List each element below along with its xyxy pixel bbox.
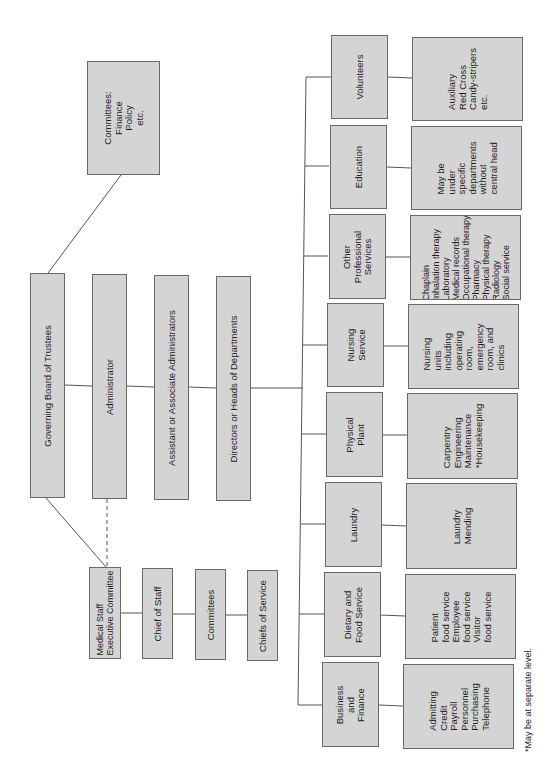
- dept-business-finance-details-box: Admitting Credit Payroll Personnel Purch…: [403, 664, 514, 749]
- footnote: *May be at separate level.: [523, 648, 533, 752]
- dept-physical-plant-details-box: Carpentry Engineering Maintenance *House…: [407, 393, 518, 479]
- dept-education-label: Education: [353, 146, 364, 188]
- dept-education-details-box: May be under specific departments withou…: [411, 126, 522, 210]
- dept-dietary-label: Dietary and Food Service: [342, 587, 363, 643]
- chief-of-staff-label: Chief of Staff: [152, 586, 163, 641]
- dept-dietary-box: Dietary and Food Service: [324, 572, 381, 657]
- dept-nursing-details: Nursing units including operating room, …: [422, 323, 506, 370]
- dept-volunteers-label: Volunteers: [354, 55, 365, 100]
- dept-laundry-box: Laundry: [325, 482, 382, 567]
- directors-label: Directors or Heads of Departments: [228, 315, 239, 462]
- dept-physical-plant-label: Physical Plant: [344, 417, 365, 452]
- dept-volunteers-box: Volunteers: [331, 35, 388, 119]
- dept-volunteers-details: Auxiliary Red Cross Candy-stripers etc.: [447, 48, 489, 110]
- assistant-administrators-box: Assistant or Associate Administrators: [154, 275, 189, 500]
- board-committees-label: Committees: Finance Policy etc.: [103, 91, 145, 144]
- dept-nursing-box: Nursing Service: [327, 303, 384, 387]
- administrator-box: Administrator: [92, 274, 127, 499]
- medical-committees-label: Committees: [205, 589, 216, 640]
- dept-education-box: Education: [330, 125, 387, 209]
- medical-staff-executive-committee-label: Medical Staff Executive Committee: [95, 570, 115, 655]
- assistant-administrators-label: Assistant or Associate Administrators: [166, 310, 177, 466]
- medical-committees-box: Committees: [195, 569, 226, 660]
- dept-dietary-details: Patient food service Employee food servi…: [429, 591, 492, 642]
- governing-board-label: Governing Board of Trustees: [42, 325, 53, 446]
- dept-laundry-details: Laundry Mending: [451, 508, 472, 544]
- directors-box: Directors or Heads of Departments: [216, 276, 251, 501]
- dept-business-finance-details: Admitting Credit Payroll Personnel Purch…: [427, 683, 490, 731]
- dept-other-professional-details: Chaplain Inhalation therapy Laboratory M…: [421, 215, 511, 300]
- administrator-label: Administrator: [104, 359, 115, 415]
- dept-other-professional-label: Other Professional Services: [342, 230, 374, 282]
- dept-nursing-label: Nursing Service: [345, 329, 366, 362]
- dept-physical-plant-box: Physical Plant: [326, 392, 383, 477]
- chief-of-staff-box: Chief of Staff: [142, 568, 173, 659]
- dept-education-details: May be under specific departments withou…: [435, 142, 498, 195]
- dept-laundry-label: Laundry: [348, 507, 359, 541]
- dept-laundry-details-box: Laundry Mending: [406, 483, 517, 569]
- dept-dietary-details-box: Patient food service Employee food servi…: [405, 574, 516, 659]
- medical-staff-executive-committee-box: Medical Staff Executive Committee: [89, 567, 121, 659]
- dept-physical-plant-details: Carpentry Engineering Maintenance *House…: [442, 404, 484, 468]
- chiefs-of-service-box: Chiefs of Service: [247, 570, 278, 661]
- dept-other-professional-box: Other Professional Services: [329, 214, 386, 299]
- dept-other-professional-details-box: Chaplain Inhalation therapy Laboratory M…: [410, 215, 521, 300]
- dept-business-finance-box: Business and Finance: [322, 662, 379, 747]
- governing-board-box: Governing Board of Trustees: [30, 273, 65, 498]
- dept-volunteers-details-box: Auxiliary Red Cross Candy-stripers etc.: [412, 37, 523, 121]
- board-committees-box: Committees: Finance Policy etc.: [87, 61, 160, 175]
- dept-business-finance-label: Business and Finance: [335, 685, 367, 724]
- org-chart: Committees: Finance Policy etc. Governin…: [0, 0, 545, 773]
- dept-nursing-details-box: Nursing units including operating room, …: [408, 304, 519, 389]
- chiefs-of-service-label: Chiefs of Service: [257, 580, 268, 652]
